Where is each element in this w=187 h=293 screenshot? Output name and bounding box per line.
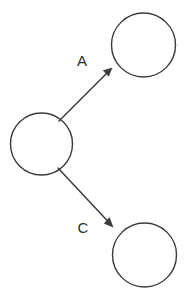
diagram-canvas: A C: [0, 0, 187, 293]
diagram-svg: A C: [0, 0, 187, 293]
node-top-right[interactable]: [112, 13, 176, 77]
edge-a-label: A: [77, 52, 87, 69]
edge-a-line: [59, 72, 109, 122]
edge-c-group[interactable]: C: [58, 168, 113, 236]
node-left[interactable]: [11, 113, 73, 175]
node-bottom-right[interactable]: [113, 223, 177, 287]
edge-c-label: C: [78, 219, 89, 236]
edge-a-group[interactable]: A: [59, 52, 112, 121]
edge-c-line: [58, 168, 109, 223]
